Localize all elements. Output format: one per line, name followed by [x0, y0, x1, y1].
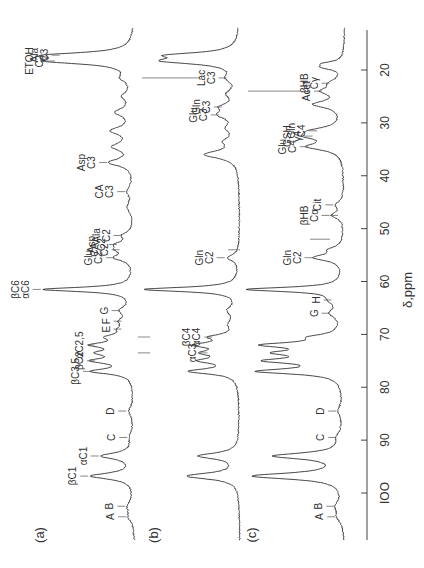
- peak-label: αC1: [78, 446, 89, 465]
- peak-label: D: [105, 407, 116, 414]
- panel-labels: (a)(b)(c): [32, 527, 259, 543]
- peak-label: C3: [86, 156, 97, 169]
- ppm-axis: 2030405060708090IOO δ,ppm: [361, 30, 415, 540]
- peak-label: H: [311, 296, 322, 303]
- peak-label: C3: [201, 100, 212, 113]
- axis-ticks: 2030405060708090IOO: [361, 63, 392, 504]
- panel-label-a: (a): [32, 527, 47, 543]
- axis-tick-label: 80: [378, 380, 392, 394]
- peak-label: F: [101, 318, 112, 324]
- axis-tick-label: 60: [378, 275, 392, 289]
- axis-tick-label: 70: [378, 327, 392, 341]
- peak-label: C2: [292, 251, 303, 264]
- panel-label-b: (b): [146, 527, 161, 543]
- peak-label: αC6: [20, 280, 31, 299]
- peak-label: B: [313, 503, 324, 510]
- peak-label: E: [101, 325, 112, 332]
- axis-tick-label: 90: [378, 433, 392, 447]
- peak-label: Cit: [312, 199, 323, 211]
- spectrum-trace-c: [246, 28, 345, 540]
- axis-tick-label: 30: [378, 116, 392, 130]
- peak-label: C3: [104, 185, 115, 198]
- peak-label: C: [315, 434, 326, 441]
- peak-label: αC4: [191, 327, 202, 346]
- axis-title: δ,ppm: [400, 272, 415, 308]
- axis-tick-label: 40: [378, 169, 392, 183]
- peak-label: C2: [101, 229, 112, 242]
- peak-label: A: [105, 513, 116, 520]
- peak-label: C3: [39, 48, 50, 61]
- peak-label: Cγ: [309, 77, 320, 89]
- peak-label: C3: [206, 71, 217, 84]
- spectra-plot: ABβC1αC1CDβC3,5βC2αC2,5EFGβC6αC6GluC2CAC…: [0, 0, 424, 568]
- peak-label: C2: [204, 251, 215, 264]
- peak-label: C: [106, 434, 117, 441]
- peak-label: βC1: [67, 466, 78, 485]
- axis-tick-label: 20: [378, 63, 392, 77]
- peak-label: B: [104, 503, 115, 510]
- peak-label: D: [315, 407, 326, 414]
- nmr-spectra-figure: ABβC1αC1CDβC3,5βC2αC2,5EFGβC6αC6GluC2CAC…: [0, 0, 424, 568]
- axis-tick-label: IOO: [378, 482, 392, 504]
- panel-label-c: (c): [244, 527, 259, 542]
- peak-label: G: [99, 306, 110, 314]
- peak-label: C4: [296, 124, 307, 137]
- peak-label: G: [309, 309, 320, 317]
- axis-tick-label: 50: [378, 222, 392, 236]
- peak-annotations: ABβC1αC1CDβC3,5βC2αC2,5EFGβC6αC6GluC2CAC…: [10, 47, 337, 520]
- peak-label: αC2,5: [74, 331, 85, 358]
- peak-label: A: [314, 513, 325, 520]
